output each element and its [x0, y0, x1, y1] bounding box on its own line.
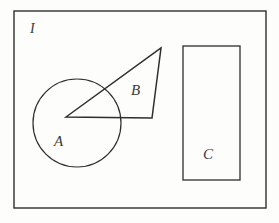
set-c-label: C — [203, 146, 214, 162]
set-a-label: A — [53, 133, 64, 149]
figure-canvas: I A B C — [0, 0, 279, 223]
geometric-figure: I A B C — [0, 0, 279, 223]
set-b-label: B — [131, 82, 140, 98]
figure-background — [0, 0, 279, 223]
